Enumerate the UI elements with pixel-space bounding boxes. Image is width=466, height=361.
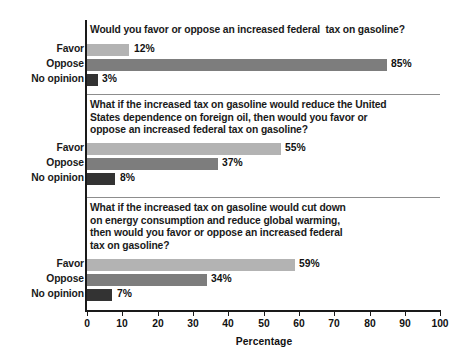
x-tick-90: [405, 311, 406, 316]
gasoline-tax-poll-chart: Would you favor or oppose an increased f…: [0, 0, 466, 361]
panel-2-question: What if the increased tax on gasoline wo…: [90, 99, 442, 137]
bar-oppose: [87, 158, 218, 170]
bar-oppose: [87, 274, 207, 286]
panel-separator-2: [87, 197, 440, 198]
panel-2-bars: Favor 55% Oppose 37% No opinion 8%: [0, 143, 466, 185]
category-label-no-opinion: No opinion: [31, 172, 84, 183]
bar-value-favor: 55%: [285, 142, 306, 153]
bar-row: Favor 59%: [0, 259, 466, 271]
x-tick-40: [228, 311, 229, 316]
bar-row: Oppose 34%: [0, 274, 466, 286]
x-tick-label-30: 30: [187, 318, 198, 329]
panel-separator-1: [87, 94, 440, 95]
x-axis-title-text: Percentage: [236, 336, 293, 347]
x-tick-label-60: 60: [293, 318, 304, 329]
bar-favor: [87, 143, 281, 155]
bar-value-no-opinion: 8%: [120, 172, 135, 183]
x-tick-label-100: 100: [431, 318, 448, 329]
bar-no-opinion: [87, 289, 112, 301]
x-tick-20: [158, 311, 159, 316]
category-label-oppose: Oppose: [46, 273, 84, 284]
bar-oppose: [87, 59, 387, 71]
x-tick-100: [440, 311, 441, 316]
x-tick-50: [264, 311, 265, 316]
x-axis-line: [85, 310, 441, 312]
bar-row: Oppose 85%: [0, 59, 466, 71]
category-label-favor: Favor: [56, 43, 84, 54]
x-tick-label-10: 10: [116, 318, 127, 329]
bar-value-oppose: 37%: [222, 157, 243, 168]
panel-1-bars: Favor 12% Oppose 85% No opinion 3%: [0, 44, 466, 86]
x-tick-80: [370, 311, 371, 316]
x-tick-0: [87, 311, 88, 316]
category-label-no-opinion: No opinion: [31, 73, 84, 84]
x-tick-label-50: 50: [258, 318, 269, 329]
panel-3-question: What if the increased tax on gasoline wo…: [90, 202, 442, 252]
bar-row: No opinion 8%: [0, 173, 466, 185]
bar-value-oppose: 85%: [391, 58, 412, 69]
bar-value-favor: 12%: [134, 43, 155, 54]
bar-value-favor: 59%: [299, 258, 320, 269]
panel-3-bars: Favor 59% Oppose 34% No opinion 7%: [0, 259, 466, 301]
x-tick-label-70: 70: [328, 318, 339, 329]
bar-row: No opinion 3%: [0, 74, 466, 86]
bar-value-oppose: 34%: [211, 273, 232, 284]
bar-no-opinion: [87, 74, 98, 86]
x-axis-title: Percentage: [0, 336, 466, 347]
category-label-oppose: Oppose: [46, 58, 84, 69]
panel-1-question: Would you favor or oppose an increased f…: [90, 24, 442, 37]
category-label-oppose: Oppose: [46, 157, 84, 168]
bar-value-no-opinion: 3%: [102, 73, 117, 84]
x-tick-label-20: 20: [152, 318, 163, 329]
bar-row: Favor 55%: [0, 143, 466, 155]
x-tick-label-80: 80: [364, 318, 375, 329]
x-tick-label-40: 40: [222, 318, 233, 329]
bar-favor: [87, 259, 295, 271]
bar-value-no-opinion: 7%: [117, 288, 132, 299]
x-tick-label-0: 0: [84, 318, 90, 329]
category-label-favor: Favor: [56, 258, 84, 269]
bar-row: Favor 12%: [0, 44, 466, 56]
x-tick-label-90: 90: [399, 318, 410, 329]
category-label-no-opinion: No opinion: [31, 288, 84, 299]
x-tick-30: [193, 311, 194, 316]
x-tick-70: [334, 311, 335, 316]
bar-row: Oppose 37%: [0, 158, 466, 170]
x-tick-60: [299, 311, 300, 316]
bar-favor: [87, 44, 129, 56]
x-tick-10: [122, 311, 123, 316]
bar-no-opinion: [87, 173, 115, 185]
bar-row: No opinion 7%: [0, 289, 466, 301]
category-label-favor: Favor: [56, 142, 84, 153]
